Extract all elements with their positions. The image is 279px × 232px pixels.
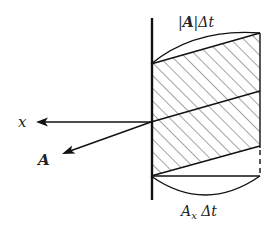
bottom-length-label: Ax Δt [179,203,217,221]
diagram-canvas: x A |A|Δt Ax Δt [0,0,279,232]
top-length-label: |A|Δt [178,14,214,31]
x-axis-arrow [36,118,151,127]
hatched-region [151,33,260,176]
x-axis-label: x [18,113,27,131]
bottom-arc [151,176,260,195]
vector-a-label: A [36,151,50,169]
vector-a-arrow [62,122,151,154]
